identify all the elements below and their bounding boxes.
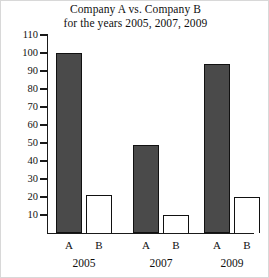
y-axis-tick-label: 90 xyxy=(0,66,38,77)
y-axis-tick-label: 80 xyxy=(0,84,38,95)
bar-2007-A xyxy=(133,145,159,233)
series-tick-label-2005-A: A xyxy=(56,239,82,251)
bar-2005-A xyxy=(56,53,82,233)
y-axis-tick xyxy=(40,52,47,53)
y-axis-tick-label: 40 xyxy=(0,156,38,167)
plot-area: 110100908070605040302010 AB2005AB2007AB2… xyxy=(1,1,269,278)
y-axis-line xyxy=(47,34,48,234)
y-axis-tick-label: 20 xyxy=(0,192,38,203)
series-tick-label-2009-B: B xyxy=(234,239,260,251)
x-axis-line xyxy=(47,233,254,234)
series-tick-label-2009-A: A xyxy=(204,239,230,251)
bar-2007-B xyxy=(163,215,189,233)
series-tick-label-2007-A: A xyxy=(133,239,159,251)
y-axis-tick-label: 100 xyxy=(0,48,38,59)
bar-chart-figure: Company A vs. Company B for the years 20… xyxy=(0,0,269,278)
y-axis-tick-label: 70 xyxy=(0,102,38,113)
bar-2009-B xyxy=(234,197,260,233)
y-axis-tick xyxy=(40,106,47,107)
series-tick-label-2007-B: B xyxy=(163,239,189,251)
y-axis-tick xyxy=(40,178,47,179)
y-axis-tick xyxy=(40,124,47,125)
y-axis-tick xyxy=(40,34,47,35)
y-axis-tick-label: 110 xyxy=(0,30,38,41)
y-axis-tick-label: 50 xyxy=(0,138,38,149)
y-axis-tick xyxy=(40,214,47,215)
y-axis-tick xyxy=(40,70,47,71)
bar-2009-A xyxy=(204,64,230,233)
y-axis-tick-label: 60 xyxy=(0,120,38,131)
y-axis-tick-label: 10 xyxy=(0,210,38,221)
y-axis-tick xyxy=(40,196,47,197)
group-label-2009: 2009 xyxy=(197,257,267,270)
series-tick-label-2005-B: B xyxy=(86,239,112,251)
y-axis-tick xyxy=(40,88,47,89)
group-label-2007: 2007 xyxy=(126,257,196,270)
group-label-2005: 2005 xyxy=(49,257,119,270)
y-axis-tick xyxy=(40,142,47,143)
y-axis-tick-label: 30 xyxy=(0,174,38,185)
y-axis-tick xyxy=(40,160,47,161)
bar-2005-B xyxy=(86,195,112,233)
